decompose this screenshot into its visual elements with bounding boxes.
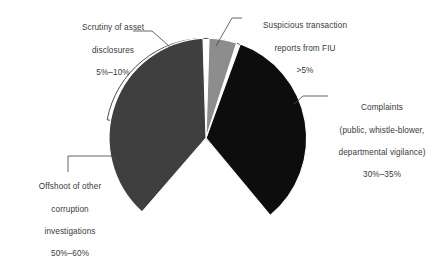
pie-label-offshoot-value: 50%–60% [12, 248, 128, 259]
pie-label-scrutiny-of-asset-disclosures: Scrutiny of asset disclosures 5%–10% [56, 11, 170, 89]
pie-label-fiu-line-1: Suspicious transaction [243, 20, 367, 31]
pie-label-complaints-line-1: Complaints [328, 102, 436, 113]
pie-label-offshoot-line-3: investigations [12, 226, 128, 237]
pie-label-complaints-value: 30%–35% [328, 169, 436, 180]
pie-label-complaints-line-2: (public, whistle-blower, [328, 125, 436, 136]
pie-label-complaints: Complaints (public, whistle-blower, depa… [328, 91, 436, 192]
pie-label-scrutiny-line-2: disclosures [56, 45, 170, 56]
pie-label-suspicious-transaction-reports: Suspicious transaction reports from FIU … [243, 9, 367, 87]
pie-label-complaints-line-3: departmental vigilance) [328, 147, 436, 158]
pie-label-fiu-line-2: reports from FIU [243, 43, 367, 54]
pie-label-offshoot-line-1: Offshoot of other [12, 181, 128, 192]
pie-label-offshoot-of-other-corruption-investigations: Offshoot of other corruption investigati… [12, 170, 128, 260]
pie-label-offshoot-line-2: corruption [12, 204, 128, 215]
pie-label-fiu-value: >5% [243, 65, 367, 76]
pie-label-scrutiny-value: 5%–10% [56, 67, 170, 78]
pie-label-scrutiny-line-1: Scrutiny of asset [56, 22, 170, 33]
